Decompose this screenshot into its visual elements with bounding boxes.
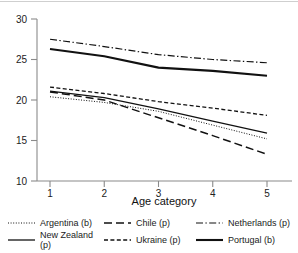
- legend-item[interactable]: Portugal (b): [196, 235, 294, 245]
- x-tick-label: 4: [210, 188, 216, 199]
- legend-label: Portugal (b): [228, 235, 275, 245]
- x-tick-label: 5: [264, 188, 270, 199]
- legend-label: Ukraine (p): [136, 235, 181, 245]
- legend-item[interactable]: Netherlands (p): [196, 218, 294, 228]
- series-lines: [50, 39, 267, 154]
- legend-line-swatch: [8, 235, 35, 245]
- x-tick-label: 2: [101, 188, 107, 199]
- legend-line-swatch: [196, 235, 223, 245]
- series-line: [50, 49, 267, 76]
- y-tick-label: 15: [16, 135, 28, 146]
- legend: Argentina (b)Chile (p)Netherlands (p)New…: [8, 214, 290, 248]
- legend-item[interactable]: New Zealand (p): [8, 230, 104, 250]
- x-tick-marks: [50, 181, 267, 187]
- legend-label: Chile (p): [136, 218, 170, 228]
- legend-item[interactable]: Argentina (b): [8, 218, 104, 228]
- legend-line-swatch: [104, 235, 131, 245]
- legend-line-swatch: [8, 218, 35, 228]
- series-line: [50, 91, 267, 133]
- legend-line-swatch: [196, 218, 223, 228]
- legend-item[interactable]: Chile (p): [104, 218, 196, 228]
- y-tick-label: 25: [16, 54, 28, 65]
- y-tick-labels: 1015202530: [16, 14, 28, 187]
- axes-group: [37, 19, 292, 181]
- legend-label: Argentina (b): [40, 218, 92, 228]
- series-line: [50, 39, 267, 62]
- legend-label: New Zealand (p): [40, 230, 104, 250]
- legend-item[interactable]: Ukraine (p): [104, 235, 196, 245]
- y-tick-label: 10: [16, 176, 28, 187]
- legend-line-swatch: [104, 218, 131, 228]
- y-tick-marks: [31, 19, 37, 181]
- y-tick-label: 30: [16, 14, 28, 25]
- x-axis-title: Age category: [132, 195, 197, 207]
- x-tick-label: 1: [47, 188, 53, 199]
- legend-label: Netherlands (p): [228, 218, 290, 228]
- y-tick-label: 20: [16, 95, 28, 106]
- line-chart: 1015202530 12345 Age category Argentina …: [0, 0, 298, 253]
